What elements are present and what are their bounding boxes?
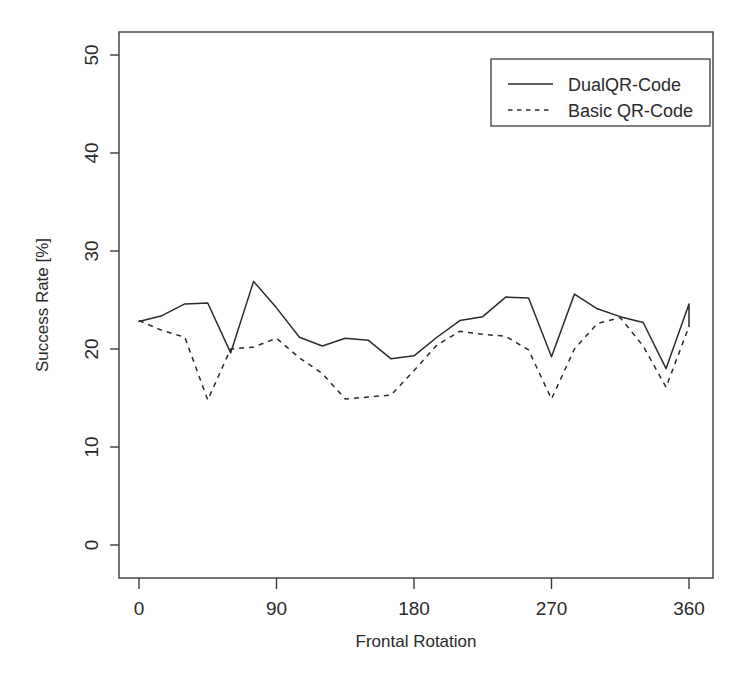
chart-legend: DualQR-Code Basic QR-Code [491,59,710,126]
x-tick-label: 270 [536,598,568,619]
y-tick-label: 50 [81,44,102,65]
legend-label-basic-qr-code: Basic QR-Code [568,101,693,121]
success-rate-line-chart: 01020304050 090180270360 Success Rate [%… [0,0,750,687]
y-tick-label: 10 [81,436,102,457]
x-tick-label: 0 [134,598,145,619]
y-tick-label: 20 [81,338,102,359]
x-tick-label: 360 [673,598,705,619]
x-tick-label: 180 [398,598,430,619]
y-tick-label: 30 [81,240,102,261]
chart-figure: 01020304050 090180270360 Success Rate [%… [0,0,750,687]
y-tick-label: 0 [81,540,102,551]
legend-label-dualqr-code: DualQR-Code [568,75,681,95]
x-tick-label: 90 [266,598,287,619]
x-axis-title: Frontal Rotation [356,632,477,651]
y-axis-title: Success Rate [%] [33,238,52,372]
y-tick-label: 40 [81,142,102,163]
